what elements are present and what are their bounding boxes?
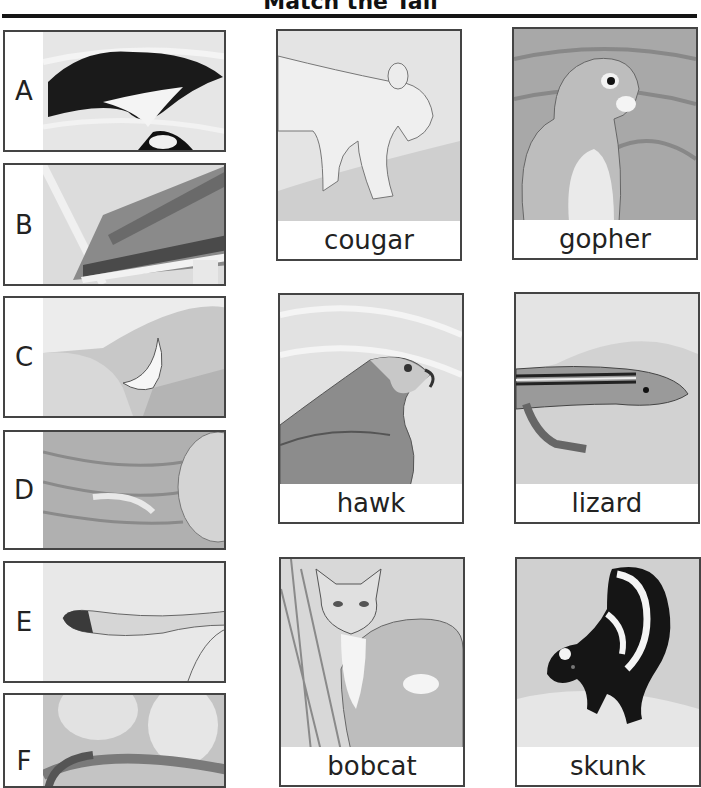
gopher-tail-icon	[43, 432, 224, 548]
cougar-illustration	[278, 31, 460, 223]
tail-card-c[interactable]: C	[3, 296, 226, 418]
tail-letter: B	[5, 165, 43, 284]
skunk-illustration	[517, 559, 699, 751]
bobcat-illustration	[281, 559, 463, 751]
lizard-illustration	[516, 294, 698, 486]
title-divider	[2, 14, 697, 18]
tail-letter: E	[5, 563, 43, 681]
tail-card-d[interactable]: D	[3, 430, 226, 550]
animal-name: lizard	[516, 484, 698, 522]
gopher-illustration	[514, 29, 696, 222]
animal-card-gopher[interactable]: gopher	[512, 27, 698, 260]
animal-card-skunk[interactable]: skunk	[515, 557, 701, 787]
animal-card-cougar[interactable]: cougar	[276, 29, 462, 261]
tail-card-b[interactable]: B	[3, 163, 226, 286]
skunk-tail-icon	[43, 32, 224, 150]
tail-card-e[interactable]: E	[3, 561, 226, 683]
hawk-illustration	[280, 295, 462, 487]
tail-letter: C	[5, 298, 43, 416]
cougar-tail-icon	[43, 563, 224, 681]
page-title: Match the Tail	[0, 0, 701, 14]
hawk-tail-icon	[43, 165, 224, 284]
lizard-tail-icon	[43, 298, 224, 416]
animal-name: gopher	[514, 220, 696, 258]
animal-card-lizard[interactable]: lizard	[514, 292, 700, 524]
animal-name: skunk	[517, 747, 699, 785]
tail-letter: F	[5, 695, 43, 786]
animal-card-bobcat[interactable]: bobcat	[279, 557, 465, 787]
animal-name: cougar	[278, 221, 460, 259]
bobcat-tail-icon	[43, 695, 224, 786]
tail-letter: A	[5, 32, 43, 150]
animal-name: hawk	[280, 484, 462, 522]
animal-card-hawk[interactable]: hawk	[278, 293, 464, 524]
tail-card-f[interactable]: F	[3, 693, 226, 788]
tail-card-a[interactable]: A	[3, 30, 226, 152]
tail-letter: D	[5, 432, 43, 548]
animal-name: bobcat	[281, 747, 463, 785]
